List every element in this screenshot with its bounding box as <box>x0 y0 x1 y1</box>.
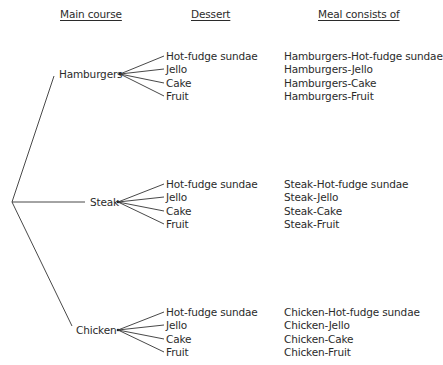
dessert-option: Hot-fudge sundae <box>166 306 258 318</box>
meal-outcome: Hamburgers-Hot-fudge sundae <box>284 50 443 62</box>
meal-outcome: Chicken-Fruit <box>284 346 351 358</box>
root-to-hamburgers-edge <box>12 76 54 202</box>
meal-outcome: Hamburgers-Cake <box>284 77 376 89</box>
dessert-option: Fruit <box>166 218 189 230</box>
meal-outcome: Chicken-Jello <box>284 319 350 331</box>
dessert-option: Hot-fudge sundae <box>166 50 258 62</box>
meal-header: Meal consists of <box>318 8 400 20</box>
meal-outcome: Steak-Hot-fudge sundae <box>284 178 408 190</box>
chicken-to-dessert-edge <box>118 330 164 352</box>
meal-outcome: Steak-Jello <box>284 191 338 203</box>
meal-outcome: Chicken-Hot-fudge sundae <box>284 306 420 318</box>
meal-outcome: Steak-Cake <box>284 205 342 217</box>
dessert-option: Cake <box>166 77 191 89</box>
dessert-option: Hot-fudge sundae <box>166 178 258 190</box>
main-course-header: Main course <box>60 8 122 20</box>
dessert-option: Cake <box>166 333 191 345</box>
main-course-chicken: Chicken <box>76 324 116 336</box>
hamburgers-to-dessert-edge <box>120 74 164 83</box>
hamburgers-to-dessert-edge <box>120 74 164 96</box>
dessert-option: Cake <box>166 205 191 217</box>
meal-outcome: Steak-Fruit <box>284 218 339 230</box>
dessert-header: Dessert <box>191 8 230 20</box>
dessert-option: Jello <box>166 191 187 203</box>
dessert-option: Fruit <box>166 346 189 358</box>
main-course-hamburgers: Hamburgers <box>59 68 122 80</box>
meal-outcome: Hamburgers-Jello <box>284 63 373 75</box>
steak-to-dessert-edge <box>118 202 164 224</box>
meal-outcome: Hamburgers-Fruit <box>284 90 374 102</box>
main-course-steak: Steak <box>90 196 119 208</box>
dessert-option: Jello <box>166 319 187 331</box>
meal-outcome: Chicken-Cake <box>284 333 353 345</box>
dessert-option: Jello <box>166 63 187 75</box>
chicken-to-dessert-edge <box>118 330 164 339</box>
root-to-chicken-edge <box>12 202 72 326</box>
steak-to-dessert-edge <box>118 202 164 211</box>
dessert-option: Fruit <box>166 90 189 102</box>
